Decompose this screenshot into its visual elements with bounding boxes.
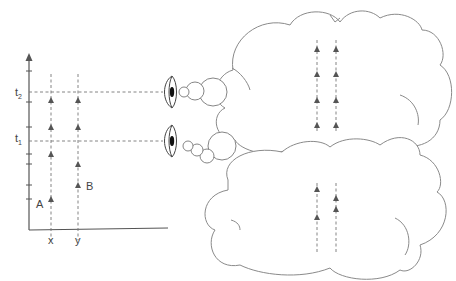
observer-eye-t1: [165, 125, 177, 157]
position-label-y: y: [75, 234, 81, 246]
label-t2: t2: [15, 86, 22, 100]
time-axis-arrow-icon: [26, 53, 33, 61]
arrow-up-icon: [48, 196, 54, 202]
thought-cloud-lower: [205, 138, 446, 280]
event-label-b: B: [86, 180, 93, 192]
thought-bubbles-lower: [183, 132, 236, 163]
thought-bubbles-upper: [179, 78, 227, 106]
arrow-up-icon: [75, 97, 81, 103]
position-label-x: x: [48, 234, 54, 246]
spacetime-diagram: t2 t1 A B x y: [0, 0, 456, 281]
svg-text:t2: t2: [15, 86, 22, 100]
arrow-up-icon: [75, 182, 81, 188]
arrow-up-icon: [75, 124, 81, 130]
arrow-up-icon: [75, 161, 81, 167]
event-label-a: A: [36, 198, 44, 210]
svg-text:t1: t1: [15, 132, 22, 146]
time-axis: [26, 53, 33, 230]
arrow-up-icon: [48, 124, 54, 130]
observer-eye-t2: [165, 76, 177, 108]
arrow-up-icon: [48, 151, 54, 157]
label-t1: t1: [15, 132, 22, 146]
arrow-up-icon: [48, 97, 54, 103]
position-axis: [29, 228, 168, 230]
thought-cloud-upper: [216, 11, 451, 159]
